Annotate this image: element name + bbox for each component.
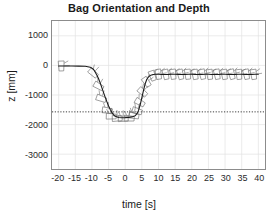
- x-tick-8: 20: [187, 173, 197, 183]
- bag-orientation-markers: [58, 61, 262, 122]
- x-tick-10: 30: [221, 173, 231, 183]
- x-tick-5: 5: [139, 173, 144, 183]
- y-tick-0: 1000: [28, 30, 48, 40]
- x-tick-1: -15: [68, 173, 81, 183]
- x-tick-9: 25: [204, 173, 214, 183]
- chart-title: Bag Orientation and Depth: [0, 2, 278, 14]
- x-tick-7: 15: [170, 173, 180, 183]
- x-tick-11: 35: [237, 173, 247, 183]
- x-tick-2: -10: [85, 173, 98, 183]
- x-tick-3: -5: [104, 173, 112, 183]
- figure: Bag Orientation and Depth 10000-1000-200…: [0, 0, 278, 224]
- y-tick-2: -1000: [25, 90, 48, 100]
- x-tick-0: -20: [51, 173, 64, 183]
- x-tick-12: 40: [254, 173, 264, 183]
- gridlines: [52, 21, 265, 169]
- x-axis-label: time [s]: [0, 198, 278, 210]
- plot-area: [51, 20, 266, 170]
- y-tick-4: -3000: [25, 150, 48, 160]
- x-axis-tick-labels: -20-15-10-50510152025303540: [51, 173, 266, 187]
- plot-canvas: [52, 21, 265, 169]
- y-axis-label: z [mm]: [5, 51, 17, 121]
- bag-marker-5: [106, 108, 116, 119]
- y-tick-3: -2000: [25, 120, 48, 130]
- y-tick-1: 0: [43, 60, 48, 70]
- x-tick-4: 0: [122, 173, 127, 183]
- x-tick-6: 10: [153, 173, 163, 183]
